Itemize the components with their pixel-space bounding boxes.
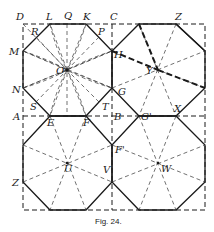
label-V: V <box>103 164 112 175</box>
label-R: R <box>30 26 39 37</box>
label-D: D <box>15 11 24 22</box>
label-Z-top: Z <box>174 11 183 22</box>
label-B: B <box>113 111 121 122</box>
label-N: N <box>11 84 22 95</box>
label-Y: Y <box>146 65 154 76</box>
label-L: L <box>45 11 53 22</box>
label-K: K <box>82 11 91 22</box>
label-C: C <box>110 11 118 22</box>
label-Q: Q <box>64 10 72 21</box>
label-G-prime: G' <box>141 111 152 122</box>
label-X: X <box>173 103 182 114</box>
label-A: A <box>12 111 20 122</box>
label-O: O <box>56 65 64 76</box>
label-P: P <box>97 26 105 37</box>
label-W: W <box>161 163 172 174</box>
figure-caption: Fig. 24. <box>95 217 122 226</box>
label-G: G <box>118 86 126 97</box>
label-Z-left: Z <box>11 177 20 188</box>
label-F-prime: F' <box>114 144 125 155</box>
label-M: M <box>8 46 20 57</box>
label-F: F <box>82 117 91 128</box>
label-T: T <box>102 101 110 112</box>
octagon-top-right <box>112 24 205 116</box>
label-U: U <box>64 163 73 174</box>
octagon-bottom-right <box>112 116 205 210</box>
label-H: H <box>113 49 123 60</box>
label-S: S <box>30 101 37 112</box>
figure-24-diagram: D L Q K C Z R P M H O Y N S T G A E F B … <box>0 0 214 232</box>
label-E: E <box>46 117 55 128</box>
